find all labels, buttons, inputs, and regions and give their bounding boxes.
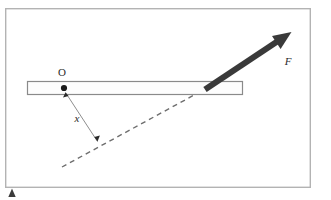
label-pivot-O: O [58, 66, 66, 78]
figure-container: O F x [0, 0, 331, 200]
label-lever-arm-x: x [74, 112, 80, 124]
pivot-point-dot [61, 85, 67, 91]
bottom-left-triangle-marker [8, 189, 15, 198]
figure-border [6, 9, 311, 188]
physics-diagram-canvas: O F x [0, 0, 331, 200]
label-force-F: F [284, 55, 292, 67]
